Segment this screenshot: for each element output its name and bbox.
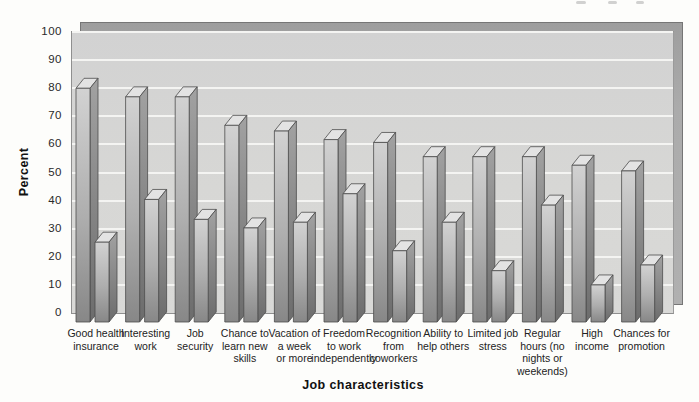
bar (194, 209, 216, 322)
bar (541, 195, 563, 322)
bar (442, 212, 464, 322)
bar (95, 232, 117, 322)
bar (393, 241, 415, 322)
bar (641, 255, 663, 322)
x-axis-title: Job characteristics (258, 378, 468, 393)
bar (145, 189, 167, 322)
bar (591, 275, 613, 322)
category-label: Chances forpromotion (603, 327, 681, 352)
bar (492, 261, 514, 322)
bar (244, 218, 266, 322)
job-characteristics-3d-bar-chart: 0102030405060708090100 Good healthinsura… (0, 0, 699, 402)
bar (343, 184, 365, 322)
y-axis-title: Percent (17, 122, 31, 222)
bar (293, 212, 315, 322)
